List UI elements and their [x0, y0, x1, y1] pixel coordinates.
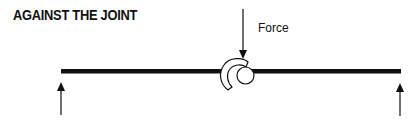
joint-diagram [0, 0, 416, 122]
force-arrow-icon [239, 9, 247, 59]
joint-icon [221, 59, 254, 90]
beam [61, 69, 401, 74]
left-support-arrow-icon [57, 82, 65, 115]
right-support-arrow-icon [396, 83, 404, 116]
